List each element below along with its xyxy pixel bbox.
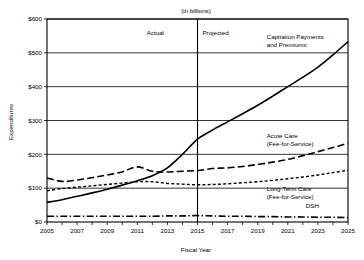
series-annotations-group: Capitation Paymentsand PremiumsAcute Car…: [267, 33, 324, 208]
x-tick-label-2019: 2019: [251, 227, 265, 234]
y-tick-label-400: $400: [28, 83, 42, 90]
chart-canvas: $0$100$200$300$400$500$600 2005200720092…: [0, 0, 364, 260]
series-label-1-line-1: (Fee-for-Service): [267, 140, 314, 147]
y-axis-title: Expenditures: [7, 104, 14, 140]
series-label-3-line-0: DSH: [306, 202, 319, 209]
series-label-0-line-0: Capitation Payments: [267, 33, 324, 40]
x-tick-label-2007: 2007: [70, 227, 84, 234]
chart-unit-title: (in billions): [181, 7, 211, 14]
y-tick-label-0: $0: [35, 218, 42, 225]
series-label-0-line-1: and Premiums: [267, 41, 307, 48]
x-tick-label-2005: 2005: [40, 227, 54, 234]
y-tick-label-300: $300: [28, 117, 42, 124]
x-tick-label-2009: 2009: [100, 227, 114, 234]
phase-labels-group: ActualProjected: [147, 29, 229, 36]
x-tick-label-2013: 2013: [161, 227, 175, 234]
y-tick-labels-group: $0$100$200$300$400$500$600: [28, 15, 42, 225]
actual-label: Actual: [147, 29, 164, 36]
x-tick-labels-group: 2005200720092011201320152017201920212023…: [40, 227, 355, 234]
x-tick-label-2021: 2021: [281, 227, 295, 234]
x-tick-label-2017: 2017: [221, 227, 235, 234]
series-label-2-line-0: Long-Term Care: [267, 185, 312, 192]
x-tick-label-2011: 2011: [131, 227, 145, 234]
x-tick-label-2015: 2015: [191, 227, 205, 234]
y-tick-label-500: $500: [28, 49, 42, 56]
series-label-1-line-0: Acute Care: [267, 132, 299, 139]
y-tick-label-200: $200: [28, 151, 42, 158]
y-tick-label-600: $600: [28, 15, 42, 22]
series-label-2-line-1: (Fee-for-Service): [267, 193, 314, 200]
expenditures-line-chart: $0$100$200$300$400$500$600 2005200720092…: [0, 0, 364, 260]
x-axis-title: Fiscal Year: [181, 246, 211, 253]
x-tick-label-2023: 2023: [311, 227, 325, 234]
x-tick-label-2025: 2025: [341, 227, 355, 234]
projected-label: Projected: [202, 29, 229, 36]
y-tick-label-100: $100: [28, 184, 42, 191]
